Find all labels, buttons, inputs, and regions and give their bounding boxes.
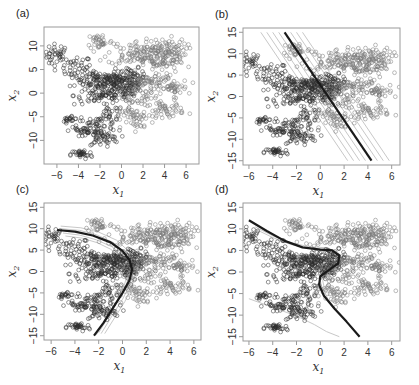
x-tick-label: −6 — [45, 346, 57, 357]
y-tick-label: 0 — [28, 268, 39, 274]
x-tick-label: −2 — [291, 347, 303, 358]
x-tick-label: −4 — [267, 347, 279, 358]
y-tick-label: −5 — [28, 111, 39, 123]
x-tick-label: 4 — [162, 170, 168, 181]
y-tick-label: −5 — [28, 287, 39, 299]
y-tick-label: −5 — [227, 287, 238, 299]
plot-area — [241, 218, 401, 337]
scatter-points — [42, 34, 195, 161]
panel-c: −6−4−20246−15−10−5051015x1x2(c) — [5, 183, 201, 375]
x-axis-label: x1 — [313, 360, 325, 376]
y-tick-label: −15 — [28, 327, 39, 344]
x-tick-label: 4 — [365, 347, 371, 358]
x-tick-label: 4 — [365, 171, 371, 182]
x-tick-label: −2 — [93, 346, 105, 357]
y-tick-label: 5 — [227, 247, 238, 253]
y-tick-label: 0 — [28, 90, 39, 96]
panel-d: −6−4−20246−15−10−5051015x1x2(d) — [204, 183, 401, 376]
y-tick-label: 0 — [227, 93, 238, 99]
y-tick-label: −15 — [227, 152, 238, 169]
x-axis-label: x1 — [313, 184, 325, 200]
x-tick-label: 2 — [341, 171, 347, 182]
x-tick-label: 6 — [389, 347, 395, 358]
y-tick-label: 0 — [227, 269, 238, 275]
y-tick-label: 15 — [28, 201, 39, 213]
panel-label: (c) — [16, 183, 29, 195]
y-tick-label: −10 — [227, 130, 238, 147]
x-tick-label: 0 — [318, 171, 324, 182]
y-tick-label: −10 — [227, 306, 238, 323]
y-tick-label: 5 — [227, 72, 238, 78]
plot-area — [241, 32, 401, 160]
x-tick-label: −4 — [69, 346, 81, 357]
x-tick-label: −4 — [267, 171, 279, 182]
y-tick-label: 10 — [28, 223, 39, 235]
x-axis-label: x1 — [113, 183, 125, 199]
x-tick-label: −6 — [243, 171, 255, 182]
scatter-points — [241, 42, 401, 158]
y-tick-label: 10 — [227, 48, 238, 60]
y-axis-label: x2 — [204, 266, 220, 278]
x-tick-label: −6 — [51, 170, 63, 181]
y-tick-label: −15 — [227, 328, 238, 345]
x-tick-label: −6 — [243, 347, 255, 358]
y-tick-label: 10 — [28, 40, 39, 52]
x-tick-label: 2 — [144, 346, 150, 357]
x-axis-label: x1 — [114, 359, 126, 375]
y-axis-label: x2 — [5, 90, 21, 102]
y-tick-label: 15 — [227, 201, 238, 213]
x-tick-label: 4 — [167, 346, 173, 357]
panel-label: (b) — [215, 8, 228, 20]
x-tick-label: 0 — [318, 347, 324, 358]
x-tick-label: −4 — [73, 170, 85, 181]
x-tick-label: −2 — [291, 171, 303, 182]
scatter-points — [43, 217, 200, 332]
panel-a: −6−4−20246−10−50510x1x2(a) — [5, 7, 199, 199]
plot-area — [42, 34, 195, 161]
x-tick-label: 0 — [119, 170, 125, 181]
plot-area — [43, 217, 200, 335]
panel-label: (a) — [16, 7, 29, 19]
y-tick-label: 15 — [227, 26, 238, 38]
x-tick-label: 2 — [140, 170, 146, 181]
x-tick-label: 6 — [191, 346, 197, 357]
x-tick-label: 0 — [120, 346, 126, 357]
panel-label: (d) — [215, 183, 228, 195]
y-tick-label: 5 — [28, 66, 39, 72]
y-tick-label: −10 — [28, 305, 39, 322]
y-tick-label: 10 — [227, 223, 238, 235]
y-tick-label: −5 — [227, 112, 238, 124]
y-axis-label: x2 — [5, 266, 21, 278]
x-tick-label: 6 — [389, 171, 395, 182]
figure-2x2-scatter-panels: −6−4−20246−10−50510x1x2(a)−6−4−20246−15−… — [0, 0, 419, 385]
y-tick-label: 5 — [28, 247, 39, 253]
x-tick-label: 2 — [341, 347, 347, 358]
panel-b: −6−4−20246−15−10−5051015x1x2(b) — [204, 8, 401, 200]
y-tick-label: −10 — [28, 131, 39, 148]
y-axis-label: x2 — [204, 91, 220, 103]
x-tick-label: −2 — [94, 170, 106, 181]
x-tick-label: 6 — [183, 170, 189, 181]
